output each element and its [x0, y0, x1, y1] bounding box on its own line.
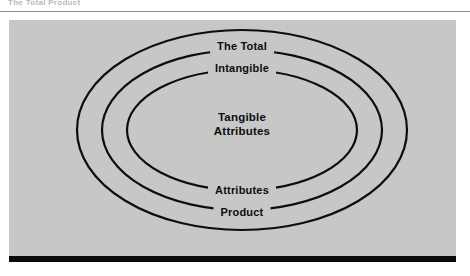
top-divider-rule — [0, 11, 470, 12]
label-outer-top: The Total — [210, 39, 274, 54]
bottom-rule-bar — [9, 256, 456, 262]
label-center-line2: Attributes — [214, 125, 270, 137]
label-center: TangibleAttributes — [206, 108, 278, 140]
label-middle-bottom: Attributes — [208, 183, 276, 198]
concentric-ellipses-graphic — [9, 20, 456, 262]
label-middle-top: Intangible — [208, 61, 276, 76]
label-outer-bottom: Product — [214, 205, 271, 220]
label-center-line1: Tangible — [218, 111, 266, 123]
figure-caption: The Total Product — [8, 0, 81, 8]
figure-panel: The Total Intangible TangibleAttributes … — [9, 20, 456, 262]
